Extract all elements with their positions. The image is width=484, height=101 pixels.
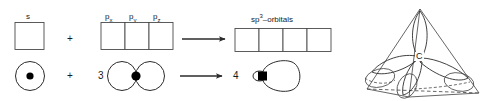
sp3-hybridization-diagram: s px py pz sp3–orbitals + + 3 4: [0, 0, 484, 101]
carbon-atom-label: C: [415, 52, 424, 61]
p-orbital-boxes: [101, 23, 173, 50]
sp3-orbital-boxes: [235, 29, 331, 52]
p-orbital-shape: [108, 62, 165, 91]
sp3-orbital-shape: [253, 61, 300, 92]
diagram-artwork: [0, 0, 484, 101]
s-orbital-box: [15, 23, 44, 50]
s-orbital-shape: [16, 62, 45, 91]
